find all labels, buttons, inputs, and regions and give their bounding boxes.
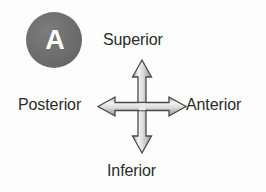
- arrow-center-junction: [139, 103, 146, 110]
- four-way-arrow-icon: [96, 58, 188, 155]
- label-posterior: Posterior: [18, 97, 81, 113]
- label-superior: Superior: [103, 32, 163, 48]
- label-inferior: Inferior: [107, 163, 156, 179]
- anatomical-orientation-figure: A: [0, 0, 266, 192]
- label-anterior: Anterior: [186, 97, 241, 113]
- panel-letter-badge: A: [26, 12, 82, 68]
- panel-letter: A: [45, 27, 65, 54]
